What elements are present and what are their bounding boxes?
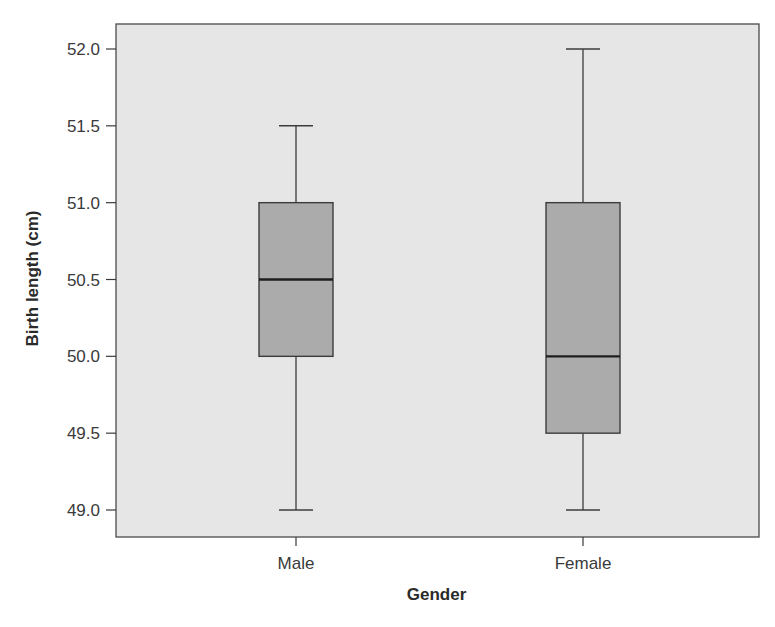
x-category-label: Female [555, 554, 612, 573]
x-axis: MaleFemale [278, 537, 612, 573]
y-tick-label: 50.5 [67, 271, 100, 290]
x-axis-title: Gender [407, 585, 467, 604]
boxplot-chart: 49.049.550.050.551.051.552.0 MaleFemale … [0, 0, 775, 627]
iqr-box [546, 203, 620, 434]
y-tick-label: 52.0 [67, 40, 100, 59]
y-axis-title: Birth length (cm) [23, 211, 42, 347]
x-category-label: Male [278, 554, 315, 573]
y-tick-label: 50.0 [67, 347, 100, 366]
plot-area [116, 24, 759, 537]
y-tick-label: 49.0 [67, 501, 100, 520]
y-tick-label: 51.0 [67, 194, 100, 213]
y-tick-label: 51.5 [67, 117, 100, 136]
y-axis: 49.049.550.050.551.051.552.0 [67, 40, 116, 520]
y-tick-label: 49.5 [67, 424, 100, 443]
